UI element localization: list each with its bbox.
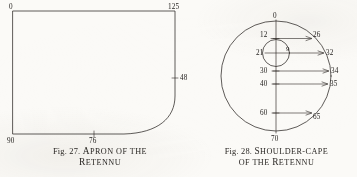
- apron-caption-fignum: Fig. 27.: [53, 147, 80, 156]
- scanned-page: 0 125 48 90 76 Fig. 27. APRON OF THE RET…: [0, 0, 357, 177]
- figure-apron-of-the-retennu: 0 125 48 90 76 Fig. 27. APRON OF THE RET…: [0, 0, 200, 177]
- apron-caption-title2-initial: R: [79, 157, 86, 167]
- apron-label-76: 76: [89, 137, 97, 145]
- apron-caption-title-initial: A: [83, 146, 90, 156]
- shoulder-cape-pattern-drawing: 0 12 21 9 30 40 60 70 26 32 34 35 65: [196, 0, 357, 146]
- cape-label-35: 35: [330, 80, 338, 88]
- cape-label-70: 70: [271, 135, 279, 143]
- cape-caption-title2-rest: ETENNU: [279, 158, 314, 167]
- cape-caption-title-rest: HOULDER-CAPE: [260, 147, 328, 156]
- cape-caption-title2-initial: R: [272, 157, 279, 167]
- cape-label-40: 40: [260, 80, 268, 88]
- apron-label-125: 125: [168, 3, 179, 11]
- cape-caption-title2-prefix: OF THE: [239, 158, 272, 167]
- apron-outline-path: [13, 11, 175, 134]
- cape-label-32: 32: [326, 49, 334, 57]
- cape-label-60: 60: [260, 109, 268, 117]
- apron-caption-title2-rest: ETENNU: [86, 158, 121, 167]
- cape-label-12: 12: [260, 31, 268, 39]
- figure-shoulder-cape-of-the-retennu: 0 12 21 9 30 40 60 70 26 32 34 35 65 Fig…: [196, 0, 357, 177]
- cape-label-26: 26: [313, 31, 321, 39]
- cape-label-0: 0: [273, 12, 277, 20]
- apron-label-90: 90: [7, 137, 15, 145]
- apron-caption: Fig. 27. APRON OF THE RETENNU: [0, 146, 200, 168]
- cape-caption-fignum: Fig. 28.: [225, 147, 252, 156]
- cape-label-30: 30: [260, 67, 268, 75]
- apron-label-0: 0: [9, 3, 13, 11]
- cape-label-34: 34: [331, 67, 339, 75]
- cape-label-65: 65: [313, 113, 321, 121]
- apron-caption-title-rest: PRON OF THE: [90, 147, 147, 156]
- cape-label-21: 21: [256, 49, 264, 57]
- cape-caption: Fig. 28. SHOULDER-CAPE OF THE RETENNU: [196, 146, 357, 168]
- cape-label-9: 9: [286, 45, 290, 52]
- apron-pattern-drawing: 0 125 48 90 76: [0, 0, 200, 146]
- apron-label-48: 48: [180, 74, 188, 82]
